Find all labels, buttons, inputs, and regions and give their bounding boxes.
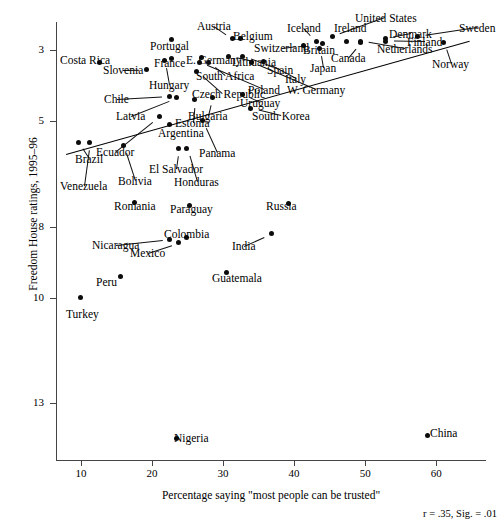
- point-label: Peru: [96, 276, 117, 288]
- data-point: [167, 94, 172, 99]
- x-axis-line: [56, 460, 486, 461]
- x-tick-mark: [223, 460, 224, 466]
- correlation-annotation: r = .35, Sig. = .01: [423, 508, 497, 519]
- data-point: [358, 40, 363, 45]
- data-point: [87, 140, 92, 145]
- y-tick-mark: [50, 50, 57, 51]
- x-tick-mark: [152, 460, 153, 466]
- y-tick-mark: [50, 403, 57, 404]
- x-tick-label: 10: [66, 468, 96, 479]
- y-tick-label: 3: [24, 44, 44, 55]
- x-tick-mark: [294, 460, 295, 466]
- data-point: [192, 97, 197, 102]
- x-tick-label: 50: [350, 468, 380, 479]
- x-tick-label: 20: [137, 468, 167, 479]
- data-point: [157, 114, 162, 119]
- y-axis-label: Freedom House ratings, 1995–96: [27, 119, 39, 309]
- data-point: [269, 231, 274, 236]
- point-label: Colombia: [164, 228, 209, 240]
- data-point: [174, 95, 179, 100]
- x-tick-mark: [365, 460, 366, 466]
- y-tick-mark: [50, 227, 57, 228]
- point-label: United States: [355, 12, 417, 24]
- point-label: Panama: [199, 147, 235, 159]
- data-point: [330, 34, 335, 39]
- point-label: South Africa: [196, 70, 254, 82]
- point-label: Romania: [114, 200, 156, 212]
- label-leader-line: [123, 70, 139, 71]
- x-tick-mark: [81, 460, 82, 466]
- scatter-chart: 3581013 102030405060 Costa RicaPortugalS…: [0, 0, 503, 522]
- point-label: Belgium: [233, 30, 273, 42]
- data-point: [184, 146, 189, 151]
- x-tick-label: 30: [208, 468, 238, 479]
- point-label: Guatemala: [212, 272, 262, 284]
- x-axis-label: Percentage saying "most people can be tr…: [56, 489, 486, 501]
- point-label: Argentina: [158, 127, 204, 139]
- point-label: China: [430, 427, 457, 439]
- data-point: [344, 39, 349, 44]
- data-point: [383, 39, 388, 44]
- data-point: [76, 140, 81, 145]
- point-label: France: [154, 57, 185, 69]
- x-tick-mark: [436, 460, 437, 466]
- point-label: E. Germany: [186, 54, 242, 66]
- x-tick-label: 60: [421, 468, 451, 479]
- data-point: [118, 274, 123, 279]
- point-label: Portugal: [150, 40, 189, 52]
- label-leader-line: [131, 101, 170, 117]
- x-tick-label: 40: [279, 468, 309, 479]
- data-point: [144, 67, 149, 72]
- data-point: [176, 146, 181, 151]
- point-label: Turkey: [66, 308, 99, 320]
- y-tick-label: 13: [24, 397, 44, 408]
- point-label: Nigeria: [174, 432, 208, 444]
- y-axis-line: [56, 22, 57, 460]
- y-tick-mark: [50, 121, 57, 122]
- data-point: [78, 295, 83, 300]
- point-label: Paraguay: [170, 203, 213, 215]
- data-point: [176, 240, 181, 245]
- y-tick-mark: [50, 298, 57, 299]
- point-label: Russia: [266, 200, 297, 212]
- data-point: [441, 40, 446, 45]
